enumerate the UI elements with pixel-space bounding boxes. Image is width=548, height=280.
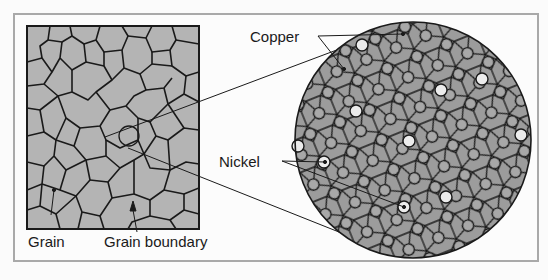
label-copper: Copper — [250, 29, 299, 44]
label-grain-boundary: Grain boundary — [104, 234, 207, 249]
label-grain: Grain — [28, 234, 65, 249]
atomic-panel — [292, 22, 531, 258]
label-nickel: Nickel — [219, 154, 260, 169]
